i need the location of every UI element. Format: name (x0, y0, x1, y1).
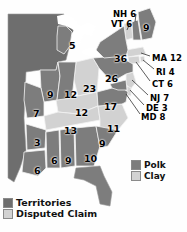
legend-swatch-polk (131, 160, 141, 170)
legend-label-clay: Clay (144, 172, 165, 181)
ev-label: 9 (65, 156, 71, 166)
legend-candidates: Polk Clay (131, 160, 166, 182)
legend-swatch-territories (3, 198, 13, 208)
legend-item-clay: Clay (131, 171, 166, 181)
leader-line-nj (132, 80, 148, 95)
legend-label-disputed-claim: Disputed Claim (16, 209, 97, 219)
legend-status: Territories Disputed Claim (3, 198, 97, 220)
label-nh: NH 6 (113, 10, 136, 19)
legend-label-territories: Territories (16, 198, 71, 208)
label-vt: VT 6 (111, 20, 132, 29)
label-ct: CT 6 (152, 80, 173, 89)
ev-label: 12 (64, 90, 77, 100)
ev-label: 6 (34, 166, 40, 176)
election-map-figure: 5 9 12 23 7 12 13 3 6 6 9 10 9 11 17 26 … (0, 0, 187, 232)
ev-label: 6 (51, 156, 57, 166)
label-md: MD 8 (141, 113, 165, 122)
ev-label: 13 (64, 126, 77, 136)
ev-label: 10 (84, 154, 97, 164)
ev-label: 9 (99, 139, 105, 149)
label-nj: NJ 7 (150, 94, 169, 103)
ev-label: 11 (107, 124, 120, 134)
ev-label: 3 (34, 138, 40, 148)
ev-label: 5 (69, 41, 75, 51)
ev-label: 7 (33, 109, 39, 119)
ev-label: 17 (104, 102, 117, 112)
ev-label: 26 (105, 74, 118, 84)
legend-swatch-disputed-claim (3, 209, 13, 219)
legend-item-disputed-claim: Disputed Claim (3, 209, 97, 219)
ev-label: 36 (114, 54, 127, 64)
legend-item-polk: Polk (131, 160, 166, 170)
label-ma: MA 12 (152, 54, 182, 63)
label-ri: RI 4 (156, 68, 175, 77)
legend-label-polk: Polk (144, 161, 166, 170)
state-massachusetts-clay (126, 47, 146, 57)
legend-item-territories: Territories (3, 198, 97, 208)
ev-label: 9 (143, 23, 149, 33)
ev-label: 12 (75, 108, 88, 118)
ev-label: 9 (47, 90, 53, 100)
ev-label: 23 (83, 84, 96, 94)
leader-line-ct (136, 62, 150, 81)
leader-line-md (126, 94, 140, 114)
legend-swatch-clay (131, 171, 141, 181)
